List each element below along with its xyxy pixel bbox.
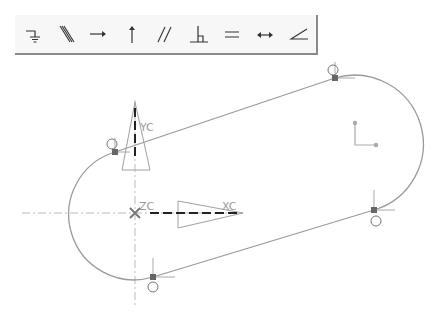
y-axis-indicator: YC <box>122 102 154 170</box>
tangent-point-top-right[interactable] <box>328 62 355 81</box>
yc-label: YC <box>139 121 154 134</box>
xc-label: XC <box>222 200 237 213</box>
slot-profile-curve[interactable] <box>69 75 424 280</box>
x-axis-indicator: XC <box>150 200 243 228</box>
sketch-csys-triad <box>353 121 377 146</box>
origin-marker: ZC <box>130 200 155 218</box>
zc-label: ZC <box>139 200 155 213</box>
sketch-canvas[interactable]: YC XC ZC <box>0 0 441 313</box>
tangent-point-bottom-right[interactable] <box>371 190 395 226</box>
